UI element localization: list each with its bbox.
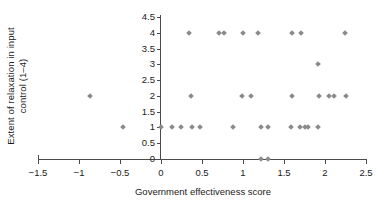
- data-point: [239, 93, 245, 99]
- data-point: [240, 30, 246, 36]
- data-point: [331, 93, 337, 99]
- data-point: [289, 93, 295, 99]
- data-point: [316, 61, 322, 67]
- data-point: [342, 30, 348, 36]
- data-point: [255, 30, 261, 36]
- data-points-layer: [0, 0, 386, 207]
- data-point: [265, 156, 271, 162]
- data-point: [305, 125, 311, 131]
- data-point: [289, 125, 295, 131]
- data-point: [258, 125, 264, 131]
- data-point: [88, 93, 94, 99]
- data-point: [230, 125, 236, 131]
- data-point: [169, 125, 175, 131]
- data-point: [248, 93, 254, 99]
- data-point: [289, 30, 295, 36]
- data-point: [298, 30, 304, 36]
- data-point: [258, 156, 264, 162]
- data-point: [265, 125, 271, 131]
- data-point: [221, 30, 227, 36]
- data-point: [120, 125, 126, 131]
- data-point: [343, 93, 349, 99]
- data-point: [316, 125, 322, 131]
- x-axis-title: Government effectiveness score: [38, 186, 368, 197]
- data-point: [178, 125, 184, 131]
- data-point: [188, 93, 194, 99]
- data-point: [197, 125, 203, 131]
- data-point: [189, 125, 195, 131]
- data-point: [158, 125, 164, 131]
- data-point: [186, 30, 192, 36]
- data-point: [316, 93, 322, 99]
- scatter-chart: Extent of relaxation in input control (1…: [0, 0, 386, 207]
